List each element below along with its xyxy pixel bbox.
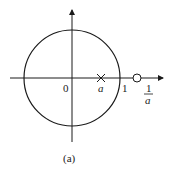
unit-label: 1 (122, 82, 128, 94)
origin-label: 0 (63, 82, 69, 94)
figure-caption: (a) (63, 152, 76, 165)
pole-zero-diagram: 0 a 1 1 a (a) (0, 0, 170, 173)
pole-label: a (98, 82, 104, 94)
zero-label-denominator: a (145, 94, 151, 106)
zero-label-numerator: 1 (146, 82, 152, 94)
zero-circle-icon (133, 74, 141, 82)
